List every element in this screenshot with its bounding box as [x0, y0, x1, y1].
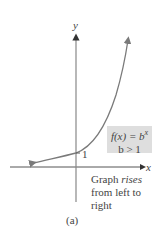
- formula: f(x) = bx: [107, 126, 152, 143]
- graph-caption: Graph rises from left to right: [91, 173, 161, 212]
- formula-box: f(x) = bx b > 1: [107, 126, 152, 153]
- y-intercept-label: 1: [82, 148, 88, 160]
- figure-label: (a): [66, 214, 78, 226]
- y-axis-label: y: [73, 19, 78, 31]
- condition: b > 1: [107, 143, 152, 156]
- x-axis-label: x: [146, 161, 151, 173]
